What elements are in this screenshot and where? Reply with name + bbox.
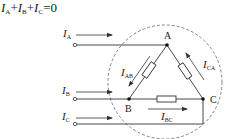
node-b-dot: [127, 97, 131, 101]
resistor-ca-icon: [178, 63, 192, 80]
line-c: IC: [61, 99, 203, 126]
label-ic: IC: [61, 110, 70, 123]
label-ib: IB: [61, 84, 70, 97]
node-label-b: B: [125, 103, 132, 114]
resistor-bc-icon: [157, 96, 176, 102]
terminal-a-icon: [73, 43, 76, 46]
node-c-dot: [201, 97, 205, 101]
node-label-c: C: [210, 94, 217, 105]
label-iab: IAB: [120, 66, 133, 79]
label-ia: IA: [62, 27, 72, 40]
label-ibc: IBC: [160, 110, 173, 123]
label-ica: ICA: [202, 58, 216, 71]
delta-circuit-diagram: IA IB IC A B C IAB ICA IBC: [0, 0, 241, 139]
line-a: IA: [62, 27, 167, 47]
terminal-c-icon: [73, 122, 76, 125]
node-label-a: A: [164, 30, 172, 41]
node-a-dot: [165, 43, 169, 47]
line-b: IB: [61, 84, 203, 101]
terminal-b-icon: [73, 97, 76, 100]
